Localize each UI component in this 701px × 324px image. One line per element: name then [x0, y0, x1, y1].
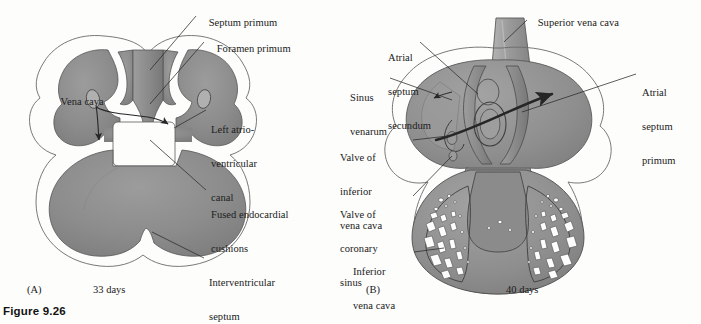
atrial-notch-left-a [118, 50, 133, 105]
label-foramen-primum: Foramen primum [206, 32, 291, 66]
panel-b-id-text: (B) [366, 284, 380, 295]
panel-a-id-text: (A) [27, 284, 42, 295]
label-vena-cava: Vena cava [50, 85, 104, 119]
superior-vena-cava-vessel-b [492, 18, 530, 66]
label-asp-line2: septum [642, 121, 676, 132]
label-ass-line3: secundum [388, 120, 431, 131]
label-ass-line1: Atrial [388, 52, 431, 63]
label-fec-line2: cushions [211, 243, 289, 254]
label-svc-text: Superior vena cava [538, 17, 619, 28]
label-septum-primum-text: Septum primum [209, 17, 278, 28]
panel-b-age: 40 days [506, 284, 538, 295]
label-vcs-line1: Valve of [340, 209, 378, 220]
label-fec-line1: Fused endocardial [211, 209, 289, 220]
panel-b-id: (B) [366, 284, 380, 295]
label-ivs-line2: septum [209, 311, 275, 322]
label-asp-line1: Atrial [642, 87, 676, 98]
interventricular-septum-b [467, 172, 528, 252]
label-vena-cava-text: Vena cava [61, 96, 104, 107]
label-ivc-line2: vena cava [353, 300, 395, 311]
valve-of-coronary-sinus-b [449, 151, 457, 161]
panel-a-id: (A) [27, 284, 42, 295]
label-atrial-septum-primum: Atrial septum primum [642, 64, 676, 189]
label-superior-vena-cava: Superior vena cava [527, 6, 619, 40]
label-ivc-line1: Inferior [353, 266, 395, 277]
figure-caption-text: Figure 9.26 [3, 305, 66, 317]
label-foramen-primum-text: Foramen primum [217, 43, 291, 54]
label-lavc-line2: ventricular [211, 158, 257, 169]
septum-primum-a [133, 50, 163, 126]
label-interventricular-septum: Interventricular septum [209, 254, 275, 324]
label-lavc-line1: Left atrio- [211, 124, 257, 135]
panel-b-age-text: 40 days [506, 284, 538, 295]
label-asp-line3: primum [642, 155, 676, 166]
label-sv-line1: Sinus [350, 92, 387, 103]
label-vivc-line1: Valve of [340, 152, 382, 163]
figure-9-26: Septum primum Foramen primum Vena cava L… [0, 0, 701, 324]
figure-caption: Figure 9.26 [3, 305, 66, 317]
panel-a-age: 33 days [93, 284, 125, 295]
label-ivs-line1: Interventricular [209, 277, 275, 288]
atrial-notch-right-a [163, 50, 178, 105]
left-atrioventricular-canal-opening-a [113, 122, 175, 166]
label-atrial-septum-secundum: Atrial septum secundum [388, 29, 431, 154]
panel-a-age-text: 33 days [93, 284, 125, 295]
label-ass-line2: septum [388, 86, 431, 97]
